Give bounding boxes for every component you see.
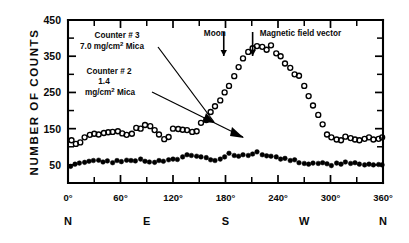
x-tick-label: 300°: [321, 192, 341, 203]
data-point: [152, 160, 157, 165]
x-compass-label: S: [222, 215, 229, 227]
x-compass-label: W: [299, 215, 310, 227]
data-point: [311, 103, 316, 108]
data-point: [82, 135, 87, 140]
moon-label: Moon: [204, 29, 226, 38]
data-point: [73, 162, 78, 167]
x-tick-label: 180°: [216, 192, 236, 203]
data-point: [208, 110, 213, 115]
y-tick-label: 50: [49, 159, 61, 171]
data-point: [269, 43, 274, 48]
counter3-label-line1: Counter # 3: [94, 31, 139, 40]
data-point: [157, 132, 162, 137]
data-point: [213, 104, 218, 109]
data-point: [297, 160, 302, 165]
data-point: [96, 158, 101, 163]
data-point: [274, 155, 279, 160]
data-point: [199, 155, 204, 160]
x-compass-label: E: [143, 215, 150, 227]
data-point: [255, 44, 260, 49]
data-point: [222, 90, 227, 95]
y-tick-label: 350: [43, 50, 61, 62]
scatter-plot: 501502503504500°60°120°180°240°300°360°N…: [0, 0, 409, 243]
data-point: [348, 161, 353, 166]
data-point: [194, 154, 199, 159]
data-point: [362, 163, 367, 168]
data-point: [101, 160, 106, 165]
data-point: [278, 54, 283, 59]
data-point: [357, 162, 362, 167]
series-counter-2: [68, 150, 384, 169]
data-point: [133, 159, 138, 164]
data-point: [288, 65, 293, 70]
data-point: [343, 160, 348, 165]
data-point: [264, 47, 269, 52]
x-tick-label: 0°: [63, 192, 72, 203]
data-point: [189, 153, 194, 158]
data-point: [161, 159, 166, 164]
data-point: [77, 161, 82, 166]
data-point: [82, 160, 87, 165]
x-compass-label: N: [379, 215, 387, 227]
data-point: [339, 162, 344, 167]
data-point: [306, 162, 311, 167]
data-point: [68, 164, 73, 169]
data-point: [222, 155, 227, 160]
moon-marker-head: [221, 50, 227, 56]
data-point: [278, 157, 283, 162]
data-point: [143, 123, 148, 128]
data-point: [204, 155, 209, 160]
data-point: [241, 56, 246, 61]
data-point: [166, 134, 171, 139]
data-point: [91, 158, 96, 163]
data-point: [283, 156, 288, 161]
data-point: [148, 124, 153, 129]
data-point: [129, 158, 134, 163]
data-point: [87, 159, 92, 164]
data-point: [320, 122, 325, 127]
counter2-leader-head: [230, 127, 244, 138]
y-tick-label: 450: [43, 14, 61, 26]
data-point: [371, 163, 376, 168]
data-point: [316, 161, 321, 166]
data-point: [371, 137, 376, 142]
data-point: [119, 159, 124, 164]
data-point: [171, 157, 176, 162]
magnetic-field-label: Magnetic field vector: [260, 29, 342, 38]
data-point: [269, 154, 274, 159]
data-point: [171, 126, 176, 131]
data-point: [288, 158, 293, 163]
x-tick-label: 240°: [268, 192, 288, 203]
data-point: [124, 158, 129, 163]
data-point: [292, 158, 297, 163]
x-compass-label: N: [64, 215, 72, 227]
data-point: [152, 128, 157, 133]
data-point: [199, 120, 204, 125]
data-point: [236, 65, 241, 70]
data-point: [325, 162, 330, 167]
data-point: [283, 61, 288, 66]
data-point: [311, 161, 316, 166]
data-point: [166, 158, 171, 163]
data-point: [246, 153, 251, 158]
data-point: [213, 158, 218, 163]
data-point: [143, 159, 148, 164]
counter3-label-line2: 7.0 mg/cm2 Mica: [80, 41, 144, 51]
data-point: [241, 152, 246, 157]
data-point: [218, 98, 223, 103]
data-point: [129, 131, 134, 136]
data-point: [218, 157, 223, 162]
data-point: [138, 157, 143, 162]
data-point: [175, 157, 180, 162]
data-point: [316, 112, 321, 117]
figure-container: NUMBER OF COUNTS 501502503504500°60°120°…: [0, 0, 409, 243]
data-point: [334, 161, 339, 166]
data-point: [147, 160, 152, 165]
data-point: [255, 150, 260, 155]
data-point: [236, 154, 241, 159]
counter3-leader: [158, 47, 214, 122]
counter2-label-line3: mg/cm2 Mica: [85, 87, 136, 97]
data-point: [227, 151, 232, 156]
data-point: [105, 159, 110, 164]
x-tick-label: 360°: [373, 192, 393, 203]
